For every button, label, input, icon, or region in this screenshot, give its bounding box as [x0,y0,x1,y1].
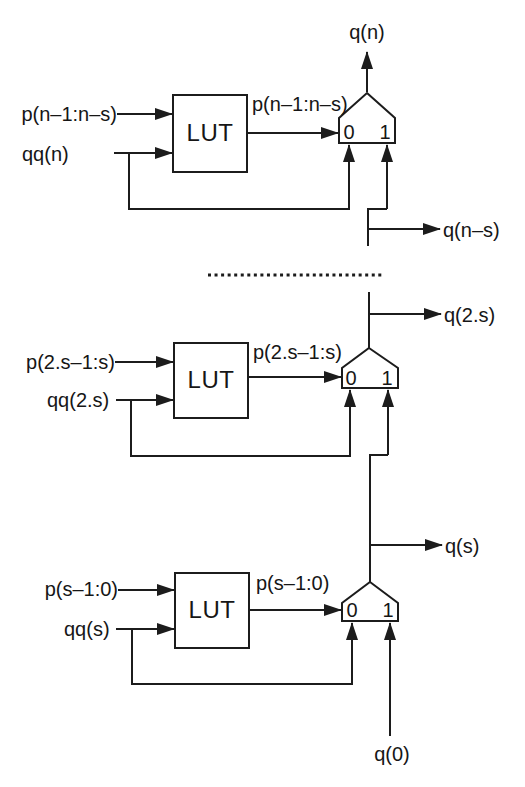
label-q0-input: q(0) [374,743,410,765]
mux-middle-port1: 1 [381,367,392,389]
mux-bottom-port0: 0 [346,599,357,621]
label-qq-input-middle: qq(2.s) [47,389,109,411]
label-qq-input-bottom: qq(s) [64,618,110,640]
mux-middle-port0: 0 [345,367,356,389]
mux-bottom-port1: 1 [382,599,393,621]
label-p-output-top: p(n–1:n–s) [252,93,348,115]
mux-top-port1: 1 [379,121,390,143]
lut-label-middle: LUT [188,366,235,393]
label-q-tap-top: q(n–s) [443,219,500,241]
wire-chain-jog-top [368,209,387,246]
lut-label-top: LUT [187,119,234,146]
label-p-input-middle: p(2.s–1:s) [26,351,115,373]
label-p-input-top: p(n–1:n–s) [21,103,117,125]
stage-middle: LUT 0 1 p(2.s–1:s) qq(2.s) p(2.s–1:s) q(… [26,292,495,582]
wire-chain-jog-middle [370,455,388,582]
figure-lut-mux-chain: LUT 0 1 p(n–1:n–s) qq(n) p(n–1:n–s) q(n)… [0,0,525,787]
circuit-diagram: LUT 0 1 p(n–1:n–s) qq(n) p(n–1:n–s) q(n)… [0,0,525,787]
mux-top-port0: 0 [343,121,354,143]
stage-bottom: LUT 0 1 p(s–1:0) qq(s) p(s–1:0) q(s) q(0… [45,535,480,765]
label-p-input-bottom: p(s–1:0) [45,578,118,600]
label-q-output-top: q(n) [349,21,385,43]
lut-label-bottom: LUT [189,596,236,623]
stage-top: LUT 0 1 p(n–1:n–s) qq(n) p(n–1:n–s) q(n)… [21,21,499,246]
label-q-tap-middle: q(2.s) [444,304,495,326]
label-q-tap-bottomstage: q(s) [445,535,479,557]
label-p-output-bottom: p(s–1:0) [256,572,329,594]
label-p-output-middle: p(2.s–1:s) [253,341,342,363]
label-qq-input-top: qq(n) [22,143,69,165]
